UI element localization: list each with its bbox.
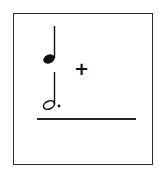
plus-operator: + xyxy=(74,60,89,78)
flashcard xyxy=(13,13,153,165)
quarter-note-icon xyxy=(40,24,60,66)
answer-line[interactable] xyxy=(37,118,136,120)
dotted-half-note-icon xyxy=(40,70,66,112)
